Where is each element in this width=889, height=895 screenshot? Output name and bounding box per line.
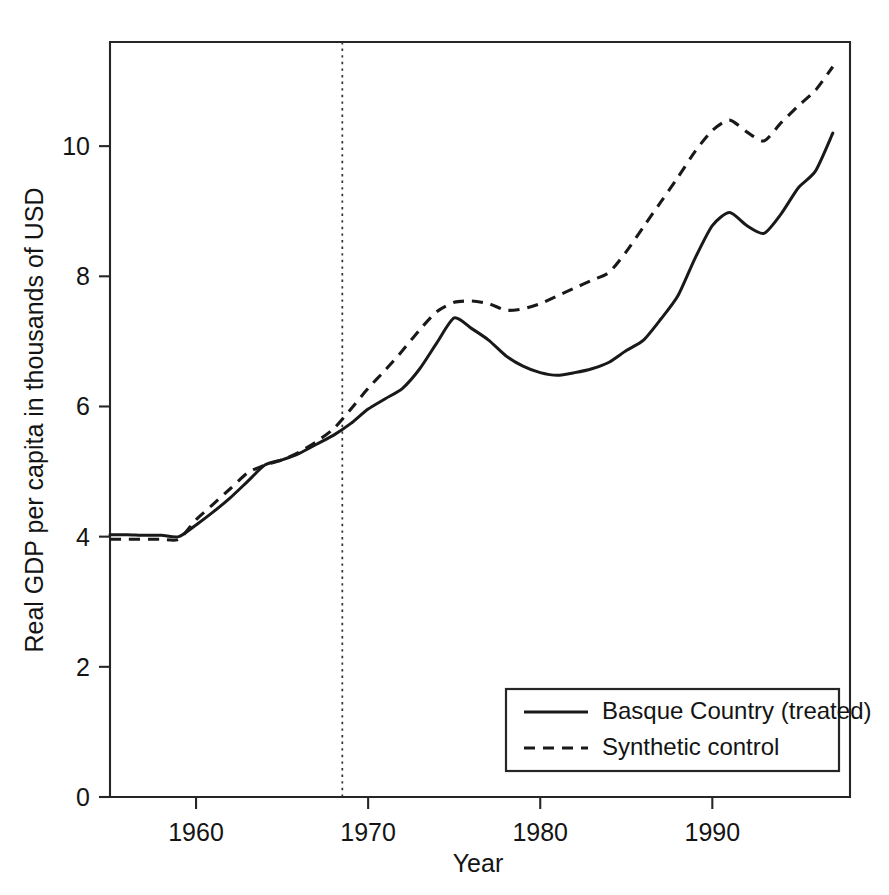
plot-border: [110, 42, 850, 797]
y-tick-label: 8: [76, 262, 90, 290]
x-axis-title: Year: [453, 849, 504, 877]
legend-label-synthetic: Synthetic control: [602, 733, 779, 760]
y-tick-label: 2: [76, 653, 90, 681]
legend-label-treated: Basque Country (treated): [602, 697, 871, 724]
y-tick-label: 10: [62, 132, 90, 160]
plot-frame: [110, 42, 850, 797]
x-axis-ticks: 1960197019801990: [168, 797, 740, 846]
y-axis-title: Real GDP per capita in thousands of USD: [20, 187, 48, 652]
chart-legend: Basque Country (treated) Synthetic contr…: [506, 689, 871, 771]
y-tick-label: 6: [76, 392, 90, 420]
y-axis-ticks: 0246810: [62, 132, 110, 811]
line-chart: 0246810 1960197019801990 Year Real GDP p…: [0, 0, 889, 895]
series-layer: [110, 67, 833, 541]
series-line-synthetic-control: [110, 67, 833, 541]
y-tick-label: 0: [76, 783, 90, 811]
x-tick-label: 1990: [685, 818, 741, 846]
series-line-basque-treated: [110, 133, 833, 537]
x-tick-label: 1980: [512, 818, 568, 846]
y-tick-label: 4: [76, 523, 90, 551]
x-tick-label: 1960: [168, 818, 224, 846]
chart-figure: 0246810 1960197019801990 Year Real GDP p…: [0, 0, 889, 895]
x-tick-label: 1970: [340, 818, 396, 846]
